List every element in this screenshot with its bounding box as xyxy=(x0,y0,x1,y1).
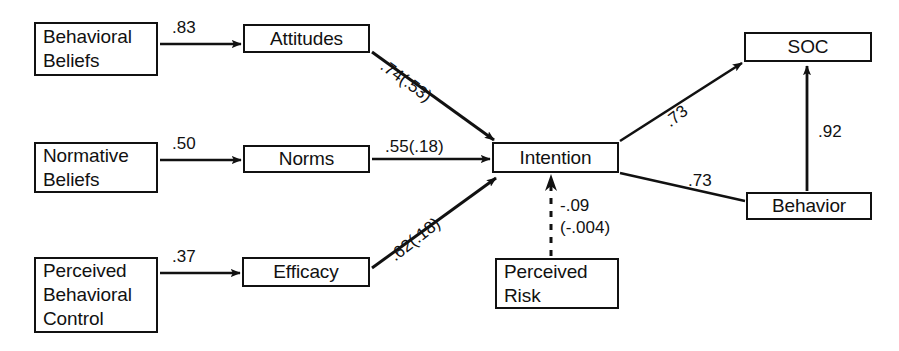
node-label-line: Norms xyxy=(279,147,334,171)
node-label-line: Behavior xyxy=(772,194,846,218)
edge-label-risk-intention-secondary: (-.004) xyxy=(560,218,610,237)
node-efficacy[interactable]: Efficacy xyxy=(242,257,370,287)
node-label-line: Normative xyxy=(43,144,129,168)
node-normative-beliefs[interactable]: Normative Beliefs xyxy=(34,142,158,193)
edge-intention-to-behavior xyxy=(620,173,745,201)
node-label-line: Attitudes xyxy=(270,27,343,51)
node-label-line: Control xyxy=(43,307,104,331)
node-label-line: SOC xyxy=(788,35,829,59)
node-label-line: Intention xyxy=(520,146,592,170)
node-label-line: Risk xyxy=(504,284,541,308)
node-behavior[interactable]: Behavior xyxy=(746,192,872,220)
edge-label-norms-intention: .55(.18) xyxy=(385,137,444,156)
edge-label-bb-attitudes: .83 xyxy=(172,18,196,37)
edge-label-risk-intention-primary: -.09 xyxy=(560,196,589,215)
node-label-line: Efficacy xyxy=(273,260,338,284)
node-norms[interactable]: Norms xyxy=(243,145,370,173)
node-label-line: Perceived xyxy=(504,260,588,284)
node-behavioral-beliefs[interactable]: Behavioral Beliefs xyxy=(34,22,158,76)
edge-intention-to-soc xyxy=(620,63,742,141)
node-attitudes[interactable]: Attitudes xyxy=(243,24,370,53)
node-soc[interactable]: SOC xyxy=(744,32,872,62)
node-intention[interactable]: Intention xyxy=(492,142,619,173)
node-label-line: Behavioral xyxy=(43,25,132,49)
node-label-line: Behavioral xyxy=(43,283,132,307)
node-label-line: Beliefs xyxy=(43,168,99,192)
node-perceived-behavioral-control[interactable]: Perceived Behavioral Control xyxy=(34,257,158,333)
edge-label-intention-behavior: .73 xyxy=(688,171,712,190)
node-label-line: Perceived xyxy=(43,259,127,283)
node-perceived-risk[interactable]: Perceived Risk xyxy=(495,258,619,309)
edge-label-behavior-soc: .92 xyxy=(818,122,842,141)
path-diagram: Behavioral Beliefs Normative Beliefs Per… xyxy=(0,0,899,351)
node-label-line: Beliefs xyxy=(43,49,99,73)
edge-label-nb-norms: .50 xyxy=(172,134,196,153)
edge-label-pbc-efficacy: .37 xyxy=(172,247,196,266)
